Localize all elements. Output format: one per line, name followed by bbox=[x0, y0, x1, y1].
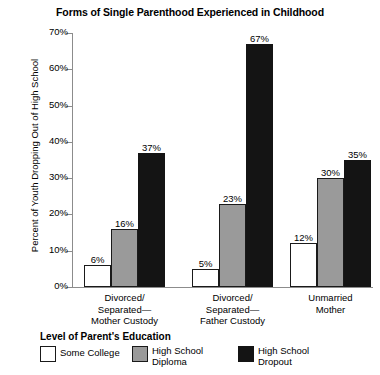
legend-label: High School Diploma bbox=[152, 345, 203, 367]
chart-title: Forms of Single Parenthood Experienced i… bbox=[0, 6, 380, 18]
bar: 16% bbox=[111, 229, 138, 287]
legend-item: High School Dropout bbox=[238, 345, 309, 367]
x-axis-category-label: Unmarried Mother bbox=[271, 292, 380, 315]
legend: Level of Parent's Education Some College… bbox=[40, 331, 375, 371]
bar-value-label: 5% bbox=[199, 258, 213, 269]
y-tick-label: 70% bbox=[32, 26, 68, 37]
bar-value-label: 16% bbox=[115, 218, 134, 229]
legend-title: Level of Parent's Education bbox=[40, 331, 375, 342]
y-tick-label: 30% bbox=[32, 171, 68, 182]
legend-label: High School Dropout bbox=[258, 345, 309, 367]
y-tick-label: 40% bbox=[32, 135, 68, 146]
bar: 23% bbox=[219, 204, 246, 287]
bar-value-label: 12% bbox=[294, 232, 313, 243]
y-tick-label: 20% bbox=[32, 207, 68, 218]
bar: 6% bbox=[84, 265, 111, 287]
bar-group: 6%16%37% bbox=[84, 33, 165, 287]
legend-swatch bbox=[238, 346, 254, 362]
bar-group: 12%30%35% bbox=[290, 33, 371, 287]
legend-item: Some College bbox=[40, 345, 120, 362]
y-tick-label: 10% bbox=[32, 244, 68, 255]
bar-group: 5%23%67% bbox=[192, 33, 273, 287]
plot-area: 0%10%20%30%40%50%60%70% 6%16%37%5%23%67%… bbox=[72, 33, 373, 287]
x-axis-line bbox=[72, 287, 373, 288]
bar-value-label: 67% bbox=[250, 33, 269, 44]
bar: 37% bbox=[138, 153, 165, 287]
x-axis-category-label: Divorced/ Separated— Mother Custody bbox=[65, 292, 185, 327]
y-tick-label: 0% bbox=[32, 280, 68, 291]
bar: 67% bbox=[246, 44, 273, 287]
bar-value-label: 30% bbox=[321, 167, 340, 178]
bar-value-label: 23% bbox=[223, 193, 242, 204]
y-tick-label: 50% bbox=[32, 99, 68, 110]
legend-item: High School Diploma bbox=[132, 345, 203, 367]
bar-value-label: 35% bbox=[348, 149, 367, 160]
legend-swatch bbox=[40, 346, 56, 362]
legend-items: Some CollegeHigh School DiplomaHigh Scho… bbox=[40, 345, 375, 371]
bar-value-label: 6% bbox=[91, 254, 105, 265]
bar-value-label: 37% bbox=[142, 142, 161, 153]
y-tick-label: 60% bbox=[32, 62, 68, 73]
y-axis-line bbox=[72, 33, 73, 287]
bar: 5% bbox=[192, 269, 219, 287]
legend-label: Some College bbox=[60, 347, 120, 358]
bar: 30% bbox=[317, 178, 344, 287]
bar: 35% bbox=[344, 160, 371, 287]
legend-swatch bbox=[132, 346, 148, 362]
bar: 12% bbox=[290, 243, 317, 287]
